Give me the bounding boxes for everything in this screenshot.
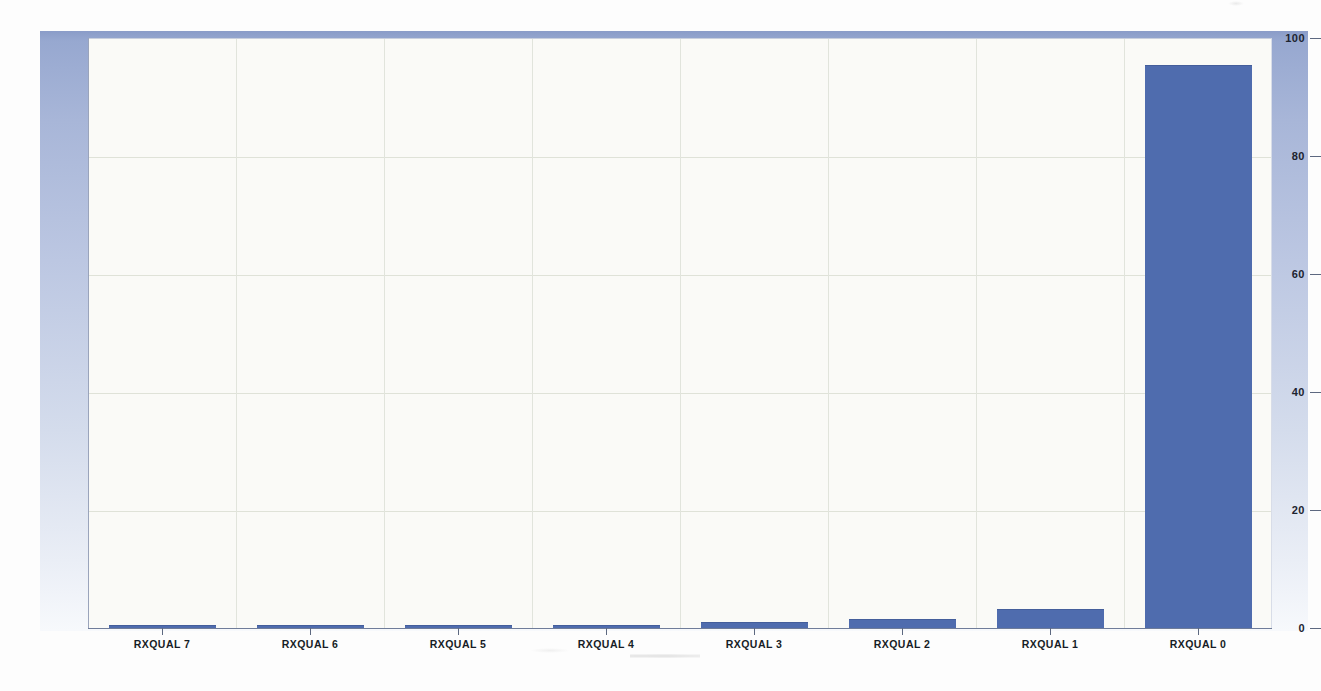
x-axis-tick-mark bbox=[1198, 628, 1199, 635]
x-axis-tick-mark bbox=[606, 628, 607, 635]
x-axis-line bbox=[88, 628, 1272, 629]
y-axis-tick-label: 40 bbox=[1292, 386, 1305, 398]
x-axis-tick-label: RXQUAL 5 bbox=[430, 638, 487, 650]
x-axis-tick-label: RXQUAL 3 bbox=[726, 638, 783, 650]
vertical-gridline bbox=[532, 39, 533, 628]
scanned-page: 100806040200RXQUAL 7RXQUAL 6RXQUAL 5RXQU… bbox=[0, 0, 1321, 691]
y-axis-tick: 100 bbox=[1233, 32, 1321, 44]
plot-inner bbox=[88, 39, 1271, 628]
vertical-gridline bbox=[236, 39, 237, 628]
y-axis-tick-mark bbox=[1310, 156, 1321, 157]
y-axis-tick-mark bbox=[1310, 392, 1321, 393]
x-axis-tick-label: RXQUAL 6 bbox=[282, 638, 339, 650]
vertical-gridline bbox=[1124, 39, 1125, 628]
y-axis-tick: 20 bbox=[1233, 504, 1321, 516]
y-axis-tick-mark bbox=[1310, 628, 1321, 629]
y-axis-tick-label: 60 bbox=[1292, 268, 1305, 280]
bar[interactable] bbox=[997, 609, 1104, 628]
vertical-gridline bbox=[828, 39, 829, 628]
y-axis-tick: 60 bbox=[1233, 268, 1321, 280]
x-axis-tick-label: RXQUAL 7 bbox=[134, 638, 191, 650]
y-axis-tick: 0 bbox=[1233, 622, 1321, 634]
x-axis-tick-mark bbox=[1050, 628, 1051, 635]
bar[interactable] bbox=[849, 619, 956, 628]
scan-artifact bbox=[530, 648, 570, 653]
y-axis-tick: 80 bbox=[1233, 150, 1321, 162]
y-axis-line bbox=[88, 38, 89, 629]
x-axis-tick-label: RXQUAL 0 bbox=[1170, 638, 1227, 650]
vertical-gridline bbox=[976, 39, 977, 628]
y-axis-tick-label: 100 bbox=[1285, 32, 1305, 44]
x-axis-tick-mark bbox=[162, 628, 163, 635]
y-axis-tick-label: 20 bbox=[1292, 504, 1305, 516]
scan-artifact bbox=[1228, 1, 1244, 6]
x-axis-tick-mark bbox=[902, 628, 903, 635]
x-axis-tick-label: RXQUAL 4 bbox=[578, 638, 635, 650]
y-axis-tick-label: 80 bbox=[1292, 150, 1305, 162]
y-axis-tick-mark bbox=[1310, 510, 1321, 511]
plot-area bbox=[88, 38, 1272, 628]
y-axis-tick: 40 bbox=[1233, 386, 1321, 398]
vertical-gridline bbox=[384, 39, 385, 628]
x-axis-tick-mark bbox=[754, 628, 755, 635]
y-axis-tick-mark bbox=[1310, 274, 1321, 275]
scan-artifact bbox=[630, 653, 700, 659]
vertical-gridline bbox=[680, 39, 681, 628]
x-axis-tick-mark bbox=[310, 628, 311, 635]
x-axis-tick-mark bbox=[458, 628, 459, 635]
y-axis-tick-mark bbox=[1310, 38, 1321, 39]
x-axis-tick-label: RXQUAL 2 bbox=[874, 638, 931, 650]
y-axis-tick-label: 0 bbox=[1298, 622, 1305, 634]
x-axis-tick-label: RXQUAL 1 bbox=[1022, 638, 1079, 650]
